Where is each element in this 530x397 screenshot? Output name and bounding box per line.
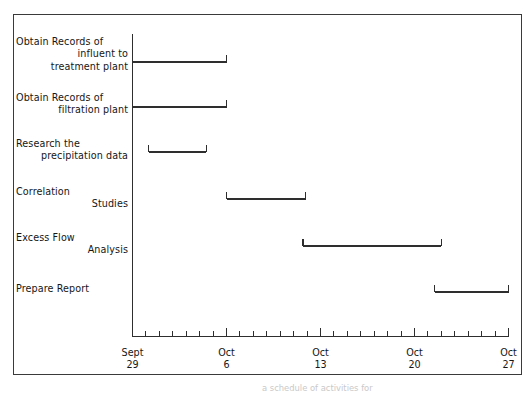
x-axis-tick-label: Oct6	[201, 347, 253, 371]
tick-label-month: Sept	[107, 347, 159, 359]
tick-label-month: Oct	[201, 347, 253, 359]
x-axis-tick-labels: Sept29Oct6Oct13Oct20Oct27	[0, 0, 530, 397]
x-axis-tick-label: Oct27	[483, 347, 530, 371]
tick-label-month: Oct	[389, 347, 441, 359]
tick-label-day: 13	[295, 359, 347, 371]
tick-label-day: 20	[389, 359, 441, 371]
x-axis-tick-label: Oct20	[389, 347, 441, 371]
x-axis-tick-label: Oct13	[295, 347, 347, 371]
tick-label-month: Oct	[295, 347, 347, 359]
tick-label-day: 6	[201, 359, 253, 371]
caption-bleed-text: a schedule of activities for	[262, 383, 524, 395]
tick-label-month: Oct	[483, 347, 530, 359]
x-axis-tick-label: Sept29	[107, 347, 159, 371]
gantt-chart-page: Obtain Records ofinfluent totreatment pl…	[0, 0, 530, 397]
tick-label-day: 29	[107, 359, 159, 371]
tick-label-day: 27	[483, 359, 530, 371]
